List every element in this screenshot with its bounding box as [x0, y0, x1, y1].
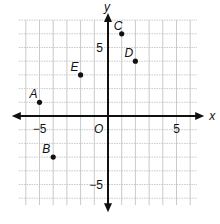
x-axis-left-arrow-icon: [12, 112, 21, 120]
point-d: [133, 59, 138, 64]
x-tick-label: −5: [33, 122, 47, 136]
y-tick-label: 5: [96, 41, 103, 55]
coordinate-plane: xy O−555−5 ABCDE: [0, 0, 220, 224]
x-axis-label: x: [208, 109, 216, 123]
point-label-d: D: [124, 46, 133, 60]
point-a: [37, 100, 42, 105]
x-tick-label: 5: [173, 122, 180, 136]
point-e: [78, 72, 83, 77]
y-axis-up-arrow-icon: [104, 13, 112, 22]
x-axis-right-arrow-icon: [195, 112, 204, 120]
point-label-c: C: [114, 19, 123, 33]
point-label-a: A: [29, 87, 38, 101]
point-b: [51, 155, 56, 160]
y-axis-label: y: [103, 0, 111, 14]
point-label-e: E: [71, 60, 80, 74]
point-label-b: B: [42, 142, 50, 156]
y-tick-label: −5: [89, 178, 103, 192]
y-axis-down-arrow-icon: [104, 203, 112, 212]
origin-label: O: [94, 122, 103, 136]
